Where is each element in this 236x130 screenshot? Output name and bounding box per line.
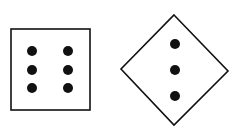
dot	[27, 83, 37, 93]
dot	[63, 83, 73, 93]
dot	[170, 39, 180, 49]
dot	[170, 65, 180, 75]
dot	[27, 65, 37, 75]
diagram-canvas	[0, 0, 236, 130]
dot	[63, 46, 73, 56]
dot	[170, 91, 180, 101]
dot	[63, 65, 73, 75]
dot	[27, 46, 37, 56]
